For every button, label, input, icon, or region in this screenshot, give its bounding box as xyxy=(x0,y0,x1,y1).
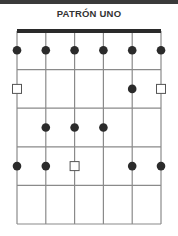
note-dot-icon xyxy=(99,46,108,55)
note-dot-icon xyxy=(70,123,79,132)
note-dot-icon xyxy=(157,46,166,55)
note-dot-icon xyxy=(13,46,22,55)
note-dot-icon xyxy=(128,85,137,94)
root-note-square-icon xyxy=(157,84,166,93)
root-note-square-icon xyxy=(70,162,79,171)
note-dot-icon xyxy=(128,46,137,55)
note-dot-icon xyxy=(42,123,51,132)
nut-bar xyxy=(17,29,161,33)
fretboard-diagram xyxy=(0,0,178,236)
note-dot-icon xyxy=(70,46,79,55)
root-note-square-icon xyxy=(13,84,22,93)
note-dot-icon xyxy=(42,162,51,171)
note-dot-icon xyxy=(99,123,108,132)
note-dot-icon xyxy=(42,46,51,55)
note-dot-icon xyxy=(13,162,22,171)
note-dot-icon xyxy=(157,162,166,171)
note-dot-icon xyxy=(128,162,137,171)
